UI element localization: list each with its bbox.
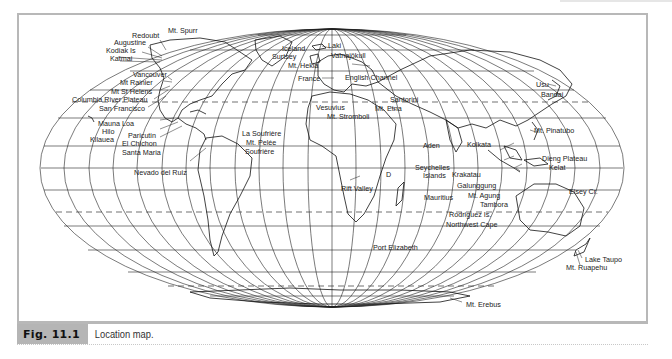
label-soufriere: Soufrière xyxy=(245,147,274,156)
label-elsey-cr: Elsey Cr. xyxy=(569,187,598,196)
label-kelat: Kelat xyxy=(549,163,565,172)
label-northwest-cape: Northwest Cape xyxy=(446,220,498,229)
label-mt-stromboli: Mt. Stromboli xyxy=(327,112,370,121)
label-surtsey: Surtsey xyxy=(272,52,297,61)
label-english-channel: English Channel xyxy=(345,73,398,82)
label-kolkata: Kolkata xyxy=(467,140,491,149)
label-france: France xyxy=(298,74,320,83)
label-vatnajokull: Vatnajökull xyxy=(331,51,366,60)
label-bandai: Bandai xyxy=(541,90,564,99)
label-columbia-river-plateau: Columbia River Plateau xyxy=(72,95,148,104)
label-mt-etna: Mt. Etna xyxy=(375,104,402,113)
label-el-chichon: El Chichon xyxy=(122,139,157,148)
label-rodriguez: Rodriguez Is. xyxy=(449,210,491,219)
label-mt-pinatubo: Mt. Pinatubo xyxy=(534,126,574,135)
label-vesuvius: Vesuvius xyxy=(316,103,345,112)
label-port-elizabeth: Port Elizabeth xyxy=(373,243,418,252)
label-mauritius: Mauritius xyxy=(424,193,454,202)
figure-number: Fig. 11.1 xyxy=(17,324,88,344)
label-katmai: Katmai xyxy=(110,54,133,63)
label-mt-pelee: Mt. Pelée xyxy=(246,138,276,147)
world-location-map: Mt. Spurr Redoubt Augustine Kodiak Is Ka… xyxy=(0,0,672,359)
label-mt-rainier: Mt Rainier xyxy=(120,78,153,87)
label-rift-valley: Rift Valley xyxy=(341,184,373,193)
label-mt-hekla: Mt. Hekla xyxy=(288,61,318,70)
label-aden: Aden xyxy=(423,141,440,150)
label-mt-spurr: Mt. Spurr xyxy=(168,26,198,35)
label-nevado-del-ruiz: Nevado del Ruiz xyxy=(134,168,187,177)
label-la-soufriere: La Soufrière xyxy=(242,129,281,138)
label-islands: Islands xyxy=(423,171,446,180)
label-laki: Laki xyxy=(328,41,342,50)
label-krakatau: Krakatau xyxy=(452,170,481,179)
label-mt-agung: Mt. Agung xyxy=(468,191,500,200)
label-mt-erebus: Mt. Erebus xyxy=(466,300,501,309)
label-mt-ruapehu: Mt. Ruapehu xyxy=(566,263,607,272)
label-dieng-plateau: Dieng Plateau xyxy=(542,154,587,163)
figure-caption-text: Location map. xyxy=(88,324,154,344)
label-santa-maria: Santa Maria xyxy=(122,148,161,157)
label-san-francisco: San Francisco xyxy=(99,104,145,113)
label-usu: Usu xyxy=(536,80,549,89)
label-galunggung: Galunggung xyxy=(457,181,496,190)
label-tambora: Tambora xyxy=(480,200,508,209)
label-santorini: Santorini xyxy=(390,95,419,104)
map-labels: Mt. Spurr Redoubt Augustine Kodiak Is Ka… xyxy=(72,26,622,309)
label-d-marker: D xyxy=(386,170,391,179)
label-kilauea: Kilauea xyxy=(90,135,114,144)
figure-caption: Fig. 11.1 Location map. xyxy=(17,324,648,345)
